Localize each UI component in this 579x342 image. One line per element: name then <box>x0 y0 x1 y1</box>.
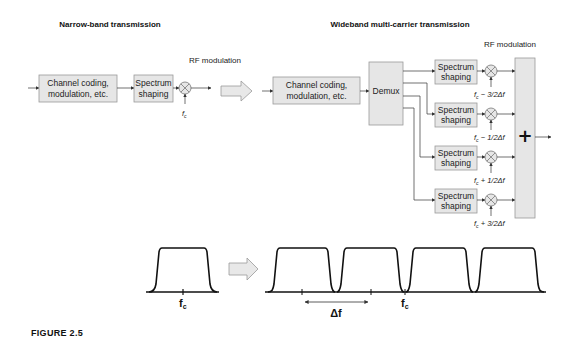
branch-line-3 <box>403 96 435 157</box>
svg-text:Channel coding,: Channel coding, <box>47 78 108 88</box>
svg-text:Spectrum: Spectrum <box>438 105 474 115</box>
svg-text:shaping: shaping <box>441 115 471 125</box>
svg-text:fc + 3/2Δf: fc + 3/2Δf <box>474 219 506 229</box>
narrowband-spectrum: fc <box>146 248 219 310</box>
svg-text:shaping: shaping <box>441 158 471 168</box>
wide-fc-label: fc <box>401 297 409 310</box>
svg-text:fc − 3/2Δf: fc − 3/2Δf <box>474 90 506 100</box>
svg-text:Spectrum: Spectrum <box>438 191 474 201</box>
demux-box: Demux <box>369 62 403 125</box>
wideband-title: Wideband multi-carrier transmission <box>330 20 469 29</box>
narrow-fc-label: fc <box>179 297 187 310</box>
transform-arrow-icon <box>221 81 252 101</box>
mixer-icon <box>485 151 497 163</box>
narrowband-channel-coding-box: Channel coding, modulation, etc. <box>39 75 117 102</box>
svg-text:Spectrum: Spectrum <box>438 62 474 72</box>
delta-f-label: Δf <box>330 307 342 319</box>
svg-text:shaping: shaping <box>441 201 471 211</box>
figure-diagram: Narrow-band transmission RF modulation C… <box>0 0 579 342</box>
wideband-channel-coding-box: Channel coding, modulation, etc. <box>273 77 360 104</box>
branch-line-4 <box>403 108 435 200</box>
svg-text:Spectrum: Spectrum <box>135 78 171 88</box>
branch-3: Spectrum shaping fc + 1/2Δf <box>435 146 515 186</box>
summer-box: + <box>515 58 535 218</box>
svg-text:shaping: shaping <box>441 72 471 82</box>
mixer-icon <box>179 82 191 94</box>
mixer-icon <box>485 108 497 120</box>
svg-text:fc + 1/2Δf: fc + 1/2Δf <box>474 176 506 186</box>
wideband-rf-label: RF modulation <box>484 40 536 49</box>
carrier-label: fc <box>182 109 187 119</box>
branch-line-2 <box>403 83 435 114</box>
svg-text:shaping: shaping <box>139 89 169 99</box>
branch-1: Spectrum shaping fc − 3/2Δf <box>435 60 515 100</box>
svg-text:fc − 1/2Δf: fc − 1/2Δf <box>474 133 506 143</box>
figure-caption: FIGURE 2.5 <box>31 328 83 338</box>
transform-arrow-icon <box>229 258 258 280</box>
narrowband-spectrum-shaping-box: Spectrum shaping <box>134 75 173 102</box>
wideband-spectrum: Δf fc <box>265 248 546 319</box>
branch-2: Spectrum shaping fc − 1/2Δf <box>435 103 515 143</box>
narrowband-title: Narrow-band transmission <box>59 20 160 29</box>
mixer-icon <box>485 194 497 206</box>
svg-text:modulation, etc.: modulation, etc. <box>48 89 108 99</box>
svg-text:Spectrum: Spectrum <box>438 148 474 158</box>
narrowband-rf-label: RF modulation <box>189 56 241 65</box>
mixer-icon <box>485 65 497 77</box>
svg-text:Demux: Demux <box>373 86 401 96</box>
svg-text:modulation, etc.: modulation, etc. <box>286 91 346 101</box>
branch-4: Spectrum shaping fc + 3/2Δf <box>435 189 515 229</box>
svg-text:Channel coding,: Channel coding, <box>286 80 347 90</box>
plus-icon: + <box>517 125 532 146</box>
